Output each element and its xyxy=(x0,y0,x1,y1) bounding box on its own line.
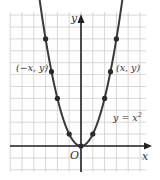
equation-label: y = x2 xyxy=(112,111,142,123)
y-axis-label: y xyxy=(70,12,78,25)
data-point xyxy=(114,36,119,41)
right-point-label: (x, y) xyxy=(116,62,140,73)
data-point xyxy=(108,69,113,74)
origin-label: O xyxy=(70,149,79,162)
data-point xyxy=(102,96,107,101)
data-point xyxy=(90,132,95,137)
x-axis-arrow-icon xyxy=(144,143,152,150)
data-point xyxy=(55,96,60,101)
x-axis-label: x xyxy=(142,150,149,163)
data-point xyxy=(43,36,48,41)
left-point-label: (−x, y) xyxy=(16,62,48,73)
parabola-chart: y x O (−x, y) (x, y) y = x2 xyxy=(0,0,160,180)
grid xyxy=(10,12,146,172)
data-point xyxy=(67,132,72,137)
data-point xyxy=(49,69,54,74)
data-point xyxy=(78,143,83,148)
